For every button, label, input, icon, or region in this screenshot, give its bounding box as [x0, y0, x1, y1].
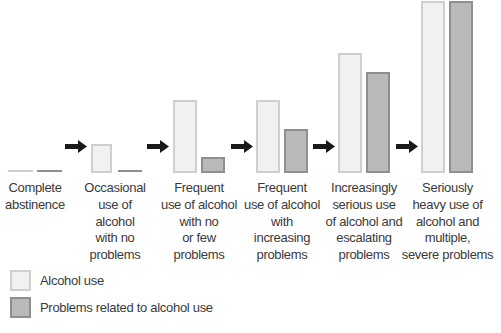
stage-label-seriously-heavy: Seriously heavy use of alcohol and multi…: [400, 180, 495, 264]
legend-swatch-problems: [10, 297, 31, 318]
bar-alcohol-use-occasional: [91, 144, 112, 173]
bar-problems-frequent-increasing: [284, 129, 308, 173]
bar-problems-frequent-few: [201, 157, 225, 173]
bar-alcohol-use-abstinence: [8, 170, 33, 172]
arrow-right-icon: [313, 140, 335, 153]
stage-label-frequent-increasing: Frequent use of alcohol with increasing …: [237, 180, 327, 264]
arrow-right-icon: [147, 140, 169, 153]
bar-problems-seriously-heavy: [449, 1, 473, 173]
legend-swatch-alcohol-use: [10, 270, 31, 291]
legend-label-alcohol-use: Alcohol use: [40, 273, 104, 288]
arrow-right-icon: [65, 140, 87, 153]
bar-alcohol-use-increasingly-serious: [338, 53, 362, 173]
bar-alcohol-use-frequent-few: [173, 100, 197, 173]
legend-label-problems: Problems related to alcohol use: [40, 300, 213, 315]
arrow-right-icon: [396, 140, 418, 153]
stage-label-increasingly-serious: Increasingly serious use of alcohol and …: [319, 180, 409, 264]
bar-problems-abstinence: [37, 170, 62, 172]
bar-alcohol-use-frequent-increasing: [256, 100, 280, 173]
bar-problems-occasional: [118, 170, 142, 172]
stage-label-abstinence: Complete abstinence: [0, 180, 80, 214]
stage-label-frequent-few: Frequent use of alcohol with no or few p…: [154, 180, 244, 264]
stage-label-occasional: Occasional use of alcohol with no proble…: [70, 180, 160, 264]
arrow-right-icon: [231, 140, 253, 153]
bar-problems-increasingly-serious: [366, 72, 390, 173]
bar-alcohol-use-seriously-heavy: [421, 1, 445, 173]
